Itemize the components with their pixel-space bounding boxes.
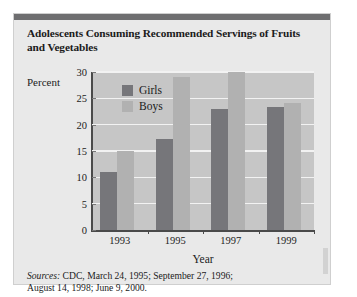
bar-boys-1997 (228, 72, 245, 230)
bar-boys-1993 (117, 151, 134, 230)
chart-panel: Adolescents Consuming Recommended Servin… (13, 13, 331, 285)
x-tick-mark (314, 230, 315, 234)
bar-boys-1999 (284, 103, 301, 230)
x-tick-label: 1995 (148, 235, 204, 246)
y-tick-label: 15 (77, 146, 88, 157)
panel-top-bar (14, 14, 330, 20)
legend-swatch-girls-icon (122, 85, 133, 96)
bar-boys-1995 (173, 77, 190, 230)
y-tick-label: 25 (77, 93, 88, 104)
x-tick-label: 1997 (203, 235, 259, 246)
bar-girls-1993 (100, 172, 117, 230)
sources-line-1: CDC, March 24, 1995; September 27, 1996; (60, 270, 233, 281)
y-tick-label: 30 (77, 67, 88, 78)
y-tick-label: 10 (77, 172, 88, 183)
x-axis-title: Year (92, 253, 314, 265)
legend-label-girls: Girls (139, 84, 162, 96)
bar-girls-1997 (211, 109, 228, 230)
y-tick-label: 0 (82, 225, 87, 236)
x-tick-mark (148, 230, 149, 234)
sources-note: Sources: CDC, March 24, 1995; September … (27, 270, 317, 293)
x-tick-label: 1993 (92, 235, 148, 246)
sources-label: Sources: (27, 270, 60, 281)
x-tick-label: 1999 (259, 235, 315, 246)
bar-girls-1995 (156, 139, 173, 230)
chart-legend: Girls Boys (122, 82, 163, 114)
y-tick-label: 20 (77, 119, 88, 130)
bar-girls-1999 (267, 107, 284, 230)
legend-item-boys: Boys (122, 98, 163, 114)
bar-group: 1997 (203, 72, 259, 230)
y-axis-title: Percent (27, 76, 60, 88)
page-title: Adolescents Consuming Recommended Servin… (27, 27, 317, 54)
y-tick-label: 5 (82, 198, 87, 209)
plot-area: 051015202530 1993199519971999 Girls Boys (92, 72, 314, 230)
legend-label-boys: Boys (139, 100, 163, 112)
y-tick-mark (92, 230, 96, 231)
edge-marker (323, 248, 328, 274)
sources-line-2: August 14, 1998; June 9, 2000. (27, 282, 147, 293)
x-tick-mark (259, 230, 260, 234)
bar-group: 1999 (259, 72, 315, 230)
legend-item-girls: Girls (122, 82, 163, 98)
x-tick-mark (203, 230, 204, 234)
legend-swatch-boys-icon (122, 101, 133, 112)
